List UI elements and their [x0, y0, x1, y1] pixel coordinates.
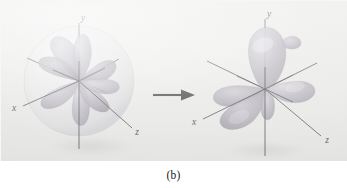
left-orbital-model: y x z	[1, 1, 171, 161]
axis-label-z-right: z	[324, 135, 329, 145]
orbital-hybridization-figure: y x z	[0, 0, 347, 188]
right-orbital-svg: y x z	[181, 1, 347, 161]
axis-label-x-left: x	[11, 103, 17, 113]
axis-label-x-right: x	[191, 117, 197, 127]
right-orbital-model: y x z	[181, 1, 347, 161]
axis-label-y-right: y	[266, 9, 272, 19]
left-orbital-svg: y x z	[1, 1, 171, 161]
figure-caption: (b)	[0, 161, 347, 188]
figure-photo-plate: y x z	[0, 0, 347, 161]
axis-label-z-left: z	[134, 127, 139, 137]
axis-label-y-left: y	[80, 13, 86, 23]
